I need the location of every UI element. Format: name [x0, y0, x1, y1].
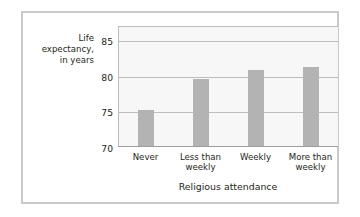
x-tick-label-line: Weekly: [240, 152, 271, 162]
x-tick-label: Never: [133, 152, 159, 162]
chart-figure: Life expectancy, in years 70758085 Never…: [0, 0, 360, 217]
bar: [138, 110, 154, 146]
gridline: [118, 41, 338, 42]
bar: [193, 79, 209, 146]
x-tick-label-line: weekly: [180, 162, 221, 172]
x-tick-label: Weekly: [240, 152, 271, 162]
y-axis-line: [118, 27, 119, 147]
plot-area: 70758085 NeverLess thanweeklyWeeklyMore …: [118, 26, 338, 147]
x-axis-title: Religious attendance: [118, 181, 338, 192]
y-axis-title: Life expectancy, in years: [26, 33, 94, 67]
y-axis-title-line-3: in years: [26, 55, 94, 66]
x-tick-label: Less thanweekly: [180, 152, 221, 172]
x-tick-label-line: Never: [133, 152, 159, 162]
x-axis-line: [118, 146, 338, 147]
y-tick-label: 75: [101, 107, 113, 118]
y-tick-label: 70: [101, 143, 113, 154]
x-tick-label-line: More than: [289, 152, 333, 162]
bar: [248, 70, 264, 145]
x-tick-label-line: weekly: [289, 162, 333, 172]
y-tick-label: 80: [101, 71, 113, 82]
x-tick-label: More thanweekly: [289, 152, 333, 172]
bar: [303, 67, 319, 145]
y-tick-label: 85: [101, 36, 113, 47]
x-tick-label-line: Less than: [180, 152, 221, 162]
y-axis-title-line-1: Life: [26, 33, 94, 44]
y-axis-title-line-2: expectancy,: [26, 44, 94, 55]
